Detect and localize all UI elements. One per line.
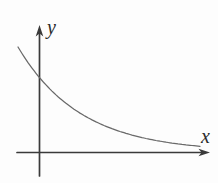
graph-figure: y x bbox=[0, 0, 218, 183]
y-axis-label: y bbox=[47, 17, 56, 37]
x-axis-label: x bbox=[201, 126, 210, 146]
function-curve bbox=[18, 47, 200, 146]
graph-canvas bbox=[0, 0, 218, 183]
